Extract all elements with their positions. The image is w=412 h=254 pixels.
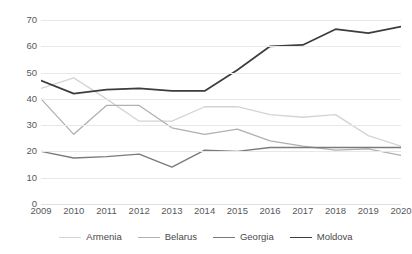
gridline-y-10: [41, 178, 401, 179]
series-layer: [41, 20, 401, 204]
y-tick-label: 70: [3, 15, 37, 25]
y-tick-label: 50: [3, 68, 37, 78]
legend-item-armenia[interactable]: Armenia: [59, 232, 121, 242]
x-tick-label: 2016: [260, 206, 281, 216]
line-chart: 010203040506070 200920102011201220132014…: [0, 0, 412, 254]
x-tick-label: 2020: [390, 206, 411, 216]
x-tick-label: 2012: [129, 206, 150, 216]
legend-swatch-line-icon: [138, 237, 160, 238]
legend-item-moldova[interactable]: Moldova: [290, 232, 353, 242]
y-tick-label: 10: [3, 173, 37, 183]
chart-legend: ArmeniaBelarusGeorgiaMoldova: [0, 228, 412, 246]
y-tick-label: 20: [3, 147, 37, 157]
plot-area: [41, 20, 401, 204]
gridline-y-60: [41, 46, 401, 47]
x-tick-label: 2019: [358, 206, 379, 216]
y-axis: 010203040506070: [0, 20, 37, 204]
legend-item-label: Moldova: [317, 232, 353, 242]
x-tick-label: 2015: [227, 206, 248, 216]
x-tick-label: 2009: [30, 206, 51, 216]
legend-swatch-line-icon: [290, 237, 312, 238]
series-line-armenia: [41, 78, 401, 146]
gridline-y-30: [41, 125, 401, 126]
x-tick-label: 2017: [292, 206, 313, 216]
legend-item-belarus[interactable]: Belarus: [138, 232, 197, 242]
y-tick-label: 30: [3, 120, 37, 130]
series-line-moldova: [41, 27, 401, 94]
gridline-y-40: [41, 99, 401, 100]
gridline-y-20: [41, 151, 401, 152]
y-tick-label: 60: [3, 42, 37, 52]
legend-item-georgia[interactable]: Georgia: [213, 232, 274, 242]
x-tick-label: 2018: [325, 206, 346, 216]
legend-swatch-line-icon: [213, 237, 235, 238]
x-tick-label: 2014: [194, 206, 215, 216]
x-axis: 2009201020112012201320142015201620172018…: [41, 206, 401, 222]
legend-item-label: Georgia: [240, 232, 274, 242]
legend-item-label: Belarus: [165, 232, 197, 242]
gridline-y-0: [41, 204, 401, 205]
x-tick-label: 2010: [63, 206, 84, 216]
y-tick-label: 40: [3, 94, 37, 104]
legend-swatch-line-icon: [59, 237, 81, 238]
gridline-y-70: [41, 20, 401, 21]
x-tick-label: 2011: [96, 206, 116, 216]
x-tick-label: 2013: [161, 206, 182, 216]
gridline-y-50: [41, 73, 401, 74]
legend-item-label: Armenia: [86, 232, 121, 242]
